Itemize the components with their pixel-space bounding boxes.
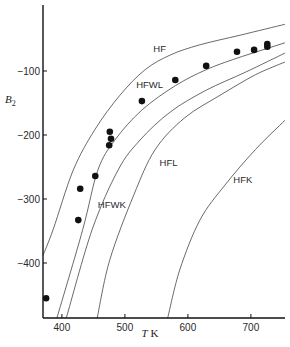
model-curves [43,24,285,318]
data-point [139,98,146,105]
chart: HFHFWLHFWKHFLHFK 400500600700 −100−200−3… [0,0,290,347]
data-point [172,77,179,84]
curve-hfl [97,62,285,318]
curve-label-hfwk: HFWK [98,199,127,210]
x-tick-label: 600 [180,322,197,333]
curve-label-hfk: HFK [233,174,253,185]
data-point [108,136,115,143]
curve-label-hf: HF [153,43,166,54]
y-tick-label: −400 [17,258,40,269]
data-point [234,49,241,56]
curve-hfwk [66,53,285,318]
y-tick-label: −200 [17,130,40,141]
data-point [251,47,258,54]
data-point [264,41,271,48]
data-point [203,63,210,70]
x-tick-label: 400 [54,322,71,333]
data-point [92,173,99,180]
y-axis-title: B2 [5,93,16,108]
curve-label-hfl: HFL [160,157,178,168]
data-point [43,295,50,302]
y-tick-label: −300 [17,194,40,205]
data-point [75,217,82,224]
data-point [77,186,84,193]
x-tick-label: 700 [243,322,260,333]
x-axis-title: T K [142,327,159,339]
data-point [107,129,114,136]
curve-hfk [168,120,285,318]
data-point [106,142,113,149]
curve-label-hfwl: HFWL [136,79,163,90]
x-tick-label: 500 [117,322,134,333]
y-tick-label: −100 [17,66,40,77]
